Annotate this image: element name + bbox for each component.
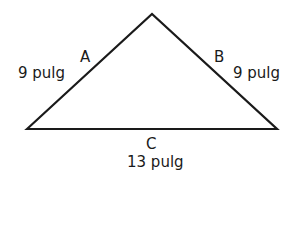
side-c-label: C <box>146 137 156 152</box>
side-c-length: 13 pulg <box>127 155 184 170</box>
side-b-label: B <box>214 50 224 65</box>
side-b-length: 9 pulg <box>233 66 280 81</box>
side-a-length: 9 pulg <box>18 66 65 81</box>
side-a-label: A <box>80 50 90 65</box>
